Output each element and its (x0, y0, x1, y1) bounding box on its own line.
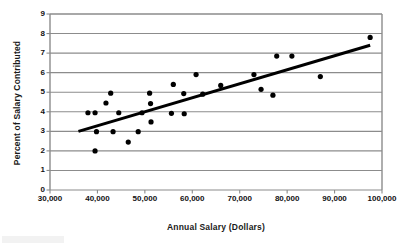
data-point (136, 129, 141, 134)
data-point (274, 53, 279, 58)
data-point (193, 72, 198, 77)
data-point (318, 74, 323, 79)
data-point (169, 111, 174, 116)
x-axis-title: Annual Salary (Dollars) (50, 222, 382, 232)
data-point (368, 35, 373, 40)
data-point (148, 119, 153, 124)
data-point (218, 83, 223, 88)
data-point (92, 110, 97, 115)
data-point (139, 110, 144, 115)
data-point (181, 91, 186, 96)
data-point (258, 87, 263, 92)
data-point (171, 82, 176, 87)
data-point (289, 53, 294, 58)
chart-figure: Percent of Salary Contributed 0123456789… (0, 0, 414, 245)
data-point (85, 110, 90, 115)
scan-artifact (2, 236, 64, 243)
data-point (182, 111, 187, 116)
data-point (147, 91, 152, 96)
data-point (92, 148, 97, 153)
data-point (103, 100, 108, 105)
data-point (94, 129, 99, 134)
data-point (251, 72, 256, 77)
data-point (116, 110, 121, 115)
data-point (200, 92, 205, 97)
plot-area (0, 0, 414, 245)
data-point (110, 129, 115, 134)
data-point (108, 91, 113, 96)
trendline (78, 45, 370, 131)
data-point (148, 101, 153, 106)
plot-frame (50, 14, 382, 190)
data-point (126, 139, 131, 144)
data-point (270, 93, 275, 98)
